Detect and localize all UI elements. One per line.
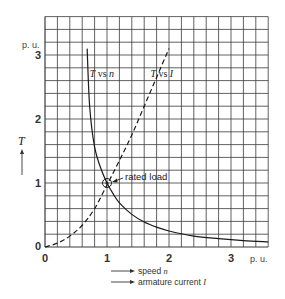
y-tick-label: 2 <box>35 113 41 125</box>
x-axis-label-armature-current: armature current I <box>138 277 207 287</box>
x-tick-label: 2 <box>166 252 172 264</box>
curve-t-vs-n <box>87 49 268 242</box>
x-tick-label: 3 <box>228 252 234 264</box>
y-tick-label: 0 <box>35 240 41 252</box>
arrow-up-icon <box>20 149 24 154</box>
rated-load-point <box>105 181 108 184</box>
x-axis-label-speed: speed n <box>138 266 168 276</box>
arrowhead-icon <box>112 179 118 183</box>
arrow-right-icon <box>130 280 135 284</box>
x-axis-ticks: 0123 <box>42 252 234 264</box>
chart-grid <box>45 17 268 247</box>
y-axis-label: T <box>18 134 26 148</box>
y-tick-label: 3 <box>35 49 41 61</box>
curve-label-t-vs-n: T vs n <box>90 68 114 79</box>
y-tick-label: 1 <box>35 177 41 189</box>
y-axis-unit: p. u. <box>22 40 40 50</box>
torque-chart: rated load T vs n T vs I 0123 0123 p. u.… <box>0 0 285 299</box>
x-tick-label: 0 <box>42 252 48 264</box>
arrow-right-icon <box>130 269 135 273</box>
curve-label-t-vs-i: T vs I <box>150 68 173 79</box>
rated-load-label: rated load <box>125 171 167 182</box>
x-tick-label: 1 <box>104 252 110 264</box>
y-axis-ticks: 0123 <box>35 49 41 252</box>
x-axis-unit: p. u. <box>250 254 268 264</box>
